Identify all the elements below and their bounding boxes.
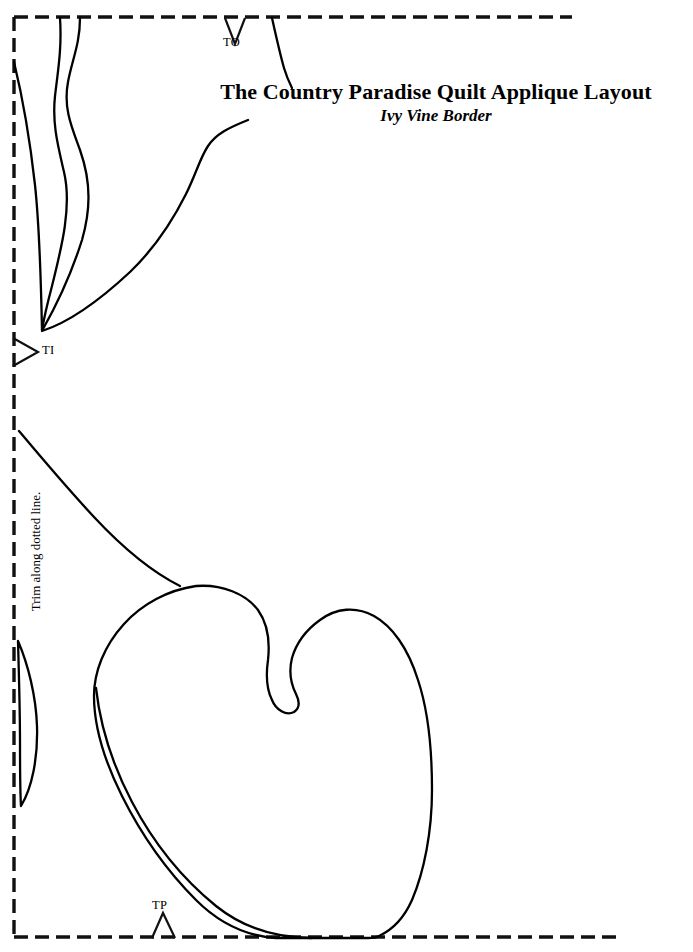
upper-stem: [42, 120, 248, 331]
trim-frame: [14, 17, 617, 937]
trim-instruction-text: Trim along dotted line.: [29, 472, 42, 632]
narrow-upper-leaf-left-edge: [14, 62, 42, 330]
narrow-upper-leaf-inner-edge: [42, 18, 67, 330]
marker-label-tp: TP: [152, 899, 167, 912]
heart-ivy-leaf-outline: [94, 586, 432, 938]
applique-pattern-drawing: [0, 0, 693, 952]
marker-label-ti: TI: [42, 344, 55, 357]
marker-ti-right-chevron-icon: [13, 338, 38, 366]
narrow-upper-leaf-right-edge: [43, 18, 89, 329]
pattern-sheet: The Country Paradise Quilt Applique Layo…: [0, 0, 693, 952]
main-stem: [19, 431, 180, 586]
title-stem: [272, 18, 292, 88]
heart-ivy-leaf-vein: [96, 688, 312, 938]
left-sliver-leaf: [18, 641, 37, 806]
marker-tp-up-triangle-icon: [152, 913, 175, 938]
marker-label-to: TO: [223, 36, 240, 49]
